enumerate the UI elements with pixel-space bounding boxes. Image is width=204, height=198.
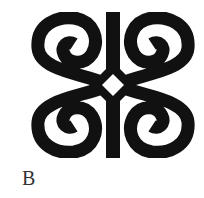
adinkra-ram-horns-icon (28, 12, 198, 158)
figure-label: B (22, 168, 35, 188)
